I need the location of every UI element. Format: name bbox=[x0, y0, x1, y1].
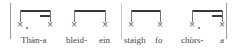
primary-beam bbox=[192, 10, 223, 12]
lyric-syllable: chòrs- bbox=[181, 35, 204, 45]
x-notehead-icon: × bbox=[218, 21, 226, 29]
x-notehead-icon: × bbox=[188, 21, 196, 29]
augmentation-dot bbox=[198, 27, 200, 29]
beat-group-4: × × chòrs- a bbox=[0, 0, 248, 49]
lyric-syllable: a bbox=[220, 35, 224, 45]
